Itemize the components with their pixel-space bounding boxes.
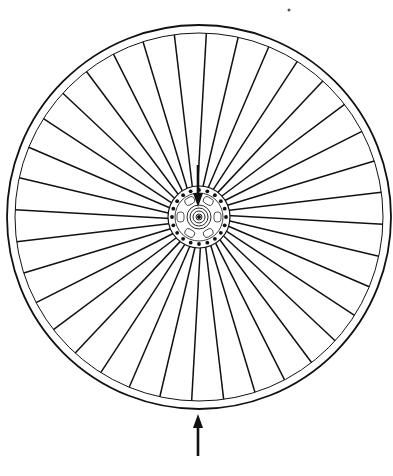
hub-spoke-hole xyxy=(171,207,175,211)
spoke xyxy=(15,210,170,219)
hub-spoke-hole xyxy=(197,242,201,246)
hub-spoke-hole xyxy=(219,231,223,235)
spoke xyxy=(174,35,192,189)
spoke xyxy=(160,246,196,397)
spoke xyxy=(19,178,170,214)
spoke xyxy=(198,33,207,188)
spoke xyxy=(227,192,381,210)
spoke xyxy=(228,216,383,225)
axle xyxy=(197,215,201,219)
spoke xyxy=(24,228,173,273)
wheel-diagram: Bicycle wheel with spokes under load xyxy=(0,0,393,476)
hub-spoke-hole xyxy=(223,207,227,211)
wheel-drawing xyxy=(0,0,393,476)
hub-spoke-hole xyxy=(171,223,175,227)
spoke xyxy=(222,235,335,341)
spoke xyxy=(205,245,223,399)
hub-spoke-hole xyxy=(213,193,217,197)
hub-spoke-hole xyxy=(219,199,223,203)
hub-spoke-hole xyxy=(189,241,193,245)
spoke xyxy=(63,93,176,199)
spoke xyxy=(192,246,201,401)
hub-spoke-hole xyxy=(181,193,185,197)
hub-spoke-hole xyxy=(223,223,227,227)
speck xyxy=(288,9,291,12)
spoke xyxy=(75,240,181,353)
spoke xyxy=(17,223,171,241)
hub-spoke-hole xyxy=(213,237,217,241)
hub-spoke-hole xyxy=(189,189,193,193)
ground-reaction-arrow xyxy=(193,414,203,456)
hub-spoke-hole xyxy=(224,215,228,219)
hub-spoke-hole xyxy=(181,237,185,241)
hub-spoke-hole xyxy=(175,199,179,203)
spoke xyxy=(217,81,323,194)
spoke xyxy=(210,244,255,393)
spoke xyxy=(226,161,375,206)
spoke xyxy=(228,221,379,257)
spoke xyxy=(203,37,239,188)
hub-spoke-hole xyxy=(205,189,209,193)
hub-spoke-hole xyxy=(175,231,179,235)
hub-spoke-hole xyxy=(205,241,209,245)
hub-spoke-hole xyxy=(170,215,174,219)
spoke xyxy=(143,42,188,191)
